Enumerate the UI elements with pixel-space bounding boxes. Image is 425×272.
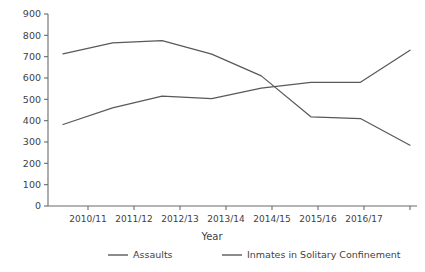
x-axis-title: Year [200, 231, 223, 242]
y-tick-label: 700 [23, 51, 41, 62]
x-tick-label: 2013/14 [207, 214, 245, 224]
x-tick-label: 2010/11 [69, 214, 106, 224]
legend-label-1: Assaults [133, 249, 173, 260]
y-tick-label: 300 [23, 136, 41, 147]
x-tick-label: 2015/16 [299, 214, 337, 224]
chart-legend: AssaultsInmates in Solitary Confinement [108, 249, 401, 260]
y-tick-label: 800 [23, 30, 41, 41]
y-tick-label: 0 [35, 200, 41, 211]
y-tick-label: 500 [23, 94, 41, 105]
y-tick-label: 600 [23, 72, 41, 83]
y-tick-label: 900 [23, 8, 41, 19]
x-axis-tick-group: 2010/112011/122012/132013/142014/152015/… [69, 206, 410, 224]
series-line-1 [63, 50, 410, 124]
x-tick-label: 2011/12 [115, 214, 152, 224]
x-tick-label: 2016/17 [345, 214, 382, 224]
line-chart: 9008007006005004003002001000 2010/112011… [0, 0, 425, 272]
y-tick-label: 200 [23, 158, 41, 169]
legend-label-2: Inmates in Solitary Confinement [247, 249, 401, 260]
x-tick-label: 2012/13 [161, 214, 198, 224]
y-tick-label: 100 [23, 179, 41, 190]
chart-canvas: 9008007006005004003002001000 2010/112011… [0, 0, 425, 272]
y-axis-tick-group: 9008007006005004003002001000 [23, 8, 48, 211]
series-group [63, 41, 410, 146]
x-tick-label: 2014/15 [253, 214, 290, 224]
y-tick-label: 400 [23, 115, 41, 126]
